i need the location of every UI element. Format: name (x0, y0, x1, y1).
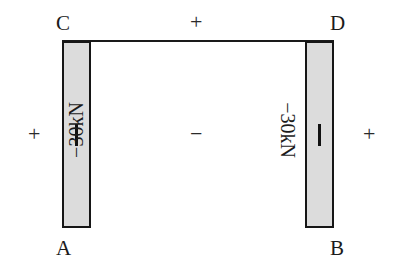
node-label-d: D (330, 13, 345, 34)
node-label-b: B (330, 238, 344, 259)
sign-marker-top: + (190, 11, 202, 33)
right-column-force-block (305, 41, 334, 228)
right-column-value-label: −30kN (278, 85, 298, 175)
axial-force-diagram: C D A B + + + − −30kN −30kN (0, 0, 395, 271)
node-label-a: A (56, 238, 71, 259)
sign-marker-left: + (28, 123, 40, 145)
left-column-value-label: −30kN (66, 85, 86, 175)
sign-marker-right: + (363, 123, 375, 145)
beam-member-cd (62, 40, 334, 42)
sign-marker-middle: − (190, 123, 202, 145)
node-label-c: C (56, 13, 70, 34)
right-column-tick (318, 124, 321, 146)
